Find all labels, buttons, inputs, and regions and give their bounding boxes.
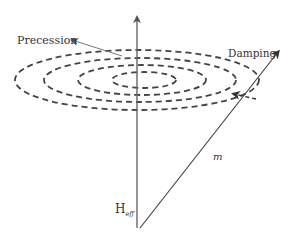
heff-subscript: eff bbox=[125, 210, 135, 218]
precession-label: Precession bbox=[17, 34, 77, 47]
damping-label: Damping bbox=[228, 47, 276, 59]
heff-main: H bbox=[115, 202, 125, 216]
m-label: m bbox=[213, 151, 222, 162]
ellipse-third bbox=[78, 65, 206, 95]
ellipse-inner bbox=[112, 72, 176, 88]
heff-label: Heff bbox=[115, 202, 135, 218]
precession-damping-diagram: Precession Damping m Heff bbox=[0, 0, 295, 242]
magnetization-vector bbox=[140, 52, 278, 228]
